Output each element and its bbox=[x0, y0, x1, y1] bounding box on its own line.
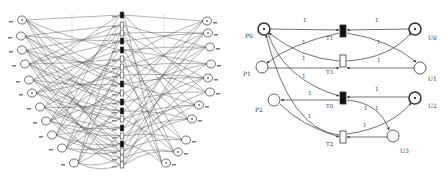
place-u0: U0 bbox=[409, 23, 437, 41]
transition-node bbox=[112, 72, 124, 78]
arc-weight-label: 1 bbox=[377, 57, 381, 63]
place-node bbox=[27, 103, 45, 111]
transition-t3: T3 bbox=[326, 55, 346, 75]
place-node bbox=[16, 76, 34, 84]
token-icon bbox=[414, 97, 416, 99]
place-node bbox=[174, 148, 189, 156]
arc-weight-label: 1 bbox=[364, 105, 368, 111]
place-node bbox=[39, 131, 57, 139]
place-node bbox=[204, 29, 219, 37]
place-label: P2 bbox=[255, 106, 263, 113]
token-icon bbox=[21, 19, 23, 21]
arcs bbox=[266, 29, 416, 137]
transition-label: T0 bbox=[326, 103, 334, 109]
transition-label: T3 bbox=[326, 69, 334, 75]
arc-weight-label: 1 bbox=[375, 86, 379, 92]
place-node bbox=[19, 89, 37, 97]
place-p1: P1 bbox=[243, 61, 268, 77]
arc-weight-label: 1 bbox=[363, 122, 367, 128]
place-label: U1 bbox=[428, 75, 437, 82]
place-node bbox=[195, 101, 210, 109]
transition-node bbox=[112, 155, 124, 161]
place-node bbox=[33, 117, 51, 125]
token-icon bbox=[207, 77, 209, 79]
place-u1: U1 bbox=[414, 62, 437, 82]
place-node bbox=[12, 60, 30, 68]
arc-weight-label: 1 bbox=[303, 17, 307, 23]
place-label: U3 bbox=[400, 147, 409, 154]
place-node bbox=[188, 115, 203, 123]
place-node bbox=[206, 43, 221, 51]
transition-t0: T0 bbox=[326, 92, 346, 109]
arc-weight-label: 1 bbox=[308, 113, 312, 119]
transition-node bbox=[112, 30, 124, 36]
transition-label: T1 bbox=[326, 35, 333, 41]
transition-node bbox=[112, 162, 124, 168]
place-node bbox=[204, 74, 219, 82]
left-petri-net bbox=[8, 12, 221, 169]
place-node bbox=[162, 159, 177, 167]
place-label: P1 bbox=[243, 70, 251, 77]
token-icon bbox=[207, 32, 209, 34]
arc-weight-label: 1 bbox=[308, 90, 312, 96]
token-icon bbox=[165, 162, 167, 164]
place-u3: U3 bbox=[387, 130, 409, 154]
place-node bbox=[206, 88, 221, 96]
arc-weight-label: 1 bbox=[375, 17, 379, 23]
place-node bbox=[8, 32, 26, 40]
right-petri-net: P0P1P2U0U1U2U3T1T3T0T21111111111111 bbox=[243, 17, 437, 154]
place-node bbox=[61, 159, 79, 167]
place-node bbox=[49, 144, 67, 152]
token-icon bbox=[198, 104, 200, 106]
token-icon bbox=[206, 20, 208, 22]
token-icon bbox=[414, 28, 416, 30]
arc-weight-label: 1 bbox=[302, 55, 306, 61]
transition-node bbox=[112, 116, 124, 122]
transition-label: T2 bbox=[326, 141, 333, 147]
arc-weight-label: 1 bbox=[302, 73, 306, 79]
place-label: U2 bbox=[428, 102, 437, 109]
place-u2: U2 bbox=[409, 92, 437, 109]
token-icon bbox=[177, 151, 179, 153]
place-node bbox=[182, 136, 197, 144]
arc-weight-label: 1 bbox=[302, 39, 306, 45]
place-p2: P2 bbox=[255, 94, 280, 113]
token-icon bbox=[31, 92, 33, 94]
place-label: P0 bbox=[245, 32, 253, 39]
place-node bbox=[9, 16, 27, 24]
token-icon bbox=[263, 28, 265, 30]
place-node bbox=[207, 60, 222, 68]
petri-net-figure: P0P1P2U0U1U2U3T1T3T0T21111111111111 bbox=[0, 0, 448, 180]
arc-weight-label: 1 bbox=[377, 39, 381, 45]
place-label: U0 bbox=[428, 34, 437, 41]
place-node bbox=[9, 46, 27, 54]
transition-t1: T1 bbox=[326, 25, 346, 41]
token-icon bbox=[191, 118, 193, 120]
place-node bbox=[203, 17, 218, 25]
arc-weight-label: 1 bbox=[375, 105, 379, 111]
